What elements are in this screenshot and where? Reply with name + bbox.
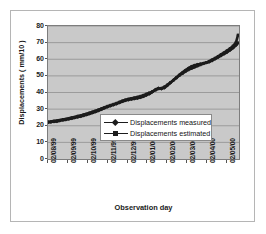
data-point (154, 89, 157, 92)
x-tick-label: 02/04/00 (209, 138, 216, 163)
data-point (169, 81, 172, 84)
data-point (178, 74, 181, 77)
data-point (56, 119, 59, 122)
data-point (235, 41, 238, 44)
x-tick-label: 02/11/99 (110, 138, 117, 163)
data-point (190, 67, 193, 70)
legend-item-measured: Displacements measured (104, 117, 208, 128)
data-point (142, 94, 145, 97)
data-point (151, 90, 154, 93)
legend-label-measured: Displacements measured (128, 118, 211, 127)
legend-marker-diamond-icon (104, 118, 128, 127)
data-point (77, 115, 80, 118)
data-point (50, 120, 53, 123)
x-axis-title: Observation day (47, 203, 240, 212)
data-point (196, 65, 199, 68)
data-point (157, 88, 160, 91)
data-point (160, 87, 163, 90)
y-tick-mark (45, 158, 47, 159)
data-point (214, 57, 217, 60)
data-point (187, 69, 190, 72)
data-point (223, 51, 226, 54)
data-point (145, 93, 148, 96)
legend-label-estimated: Displacements estimated (128, 129, 210, 138)
data-point (199, 64, 202, 67)
x-tick-mark (107, 160, 108, 163)
x-tick-mark (67, 160, 68, 163)
data-point (86, 112, 89, 115)
x-axis-tick-labels: 02/08/9902/09/9902/10/9902/11/9902/12/99… (47, 161, 240, 201)
data-point (175, 77, 178, 80)
data-point (121, 100, 124, 103)
x-tick-mark (47, 160, 48, 163)
y-tick-label: 30 (26, 105, 44, 112)
data-point (62, 118, 65, 121)
y-tick-label: 20 (26, 121, 44, 128)
data-point (237, 34, 239, 37)
chart-legend: Displacements measured Displacements est… (100, 114, 212, 141)
data-point (220, 53, 223, 56)
x-tick-label: 02/08/99 (50, 138, 57, 163)
data-point (91, 110, 94, 113)
data-point (181, 72, 184, 75)
data-point (136, 96, 139, 99)
data-point (74, 116, 77, 119)
data-series-layer (48, 34, 239, 125)
data-point (127, 98, 130, 101)
y-tick-mark (45, 42, 47, 43)
data-point (172, 79, 175, 82)
data-point (163, 86, 166, 89)
x-tick-mark (206, 160, 207, 163)
data-point (226, 49, 229, 52)
data-point (106, 105, 109, 108)
x-tick-label: 02/02/00 (169, 138, 176, 163)
data-point (184, 70, 187, 73)
x-tick-mark (127, 160, 128, 163)
y-tick-label: 0 (26, 155, 44, 162)
data-point (211, 58, 214, 61)
legend-item-estimated: Displacements estimated (104, 128, 208, 139)
data-point (53, 120, 56, 123)
x-tick-label: 02/10/99 (90, 138, 97, 163)
x-tick-mark (166, 160, 167, 163)
y-tick-mark (45, 58, 47, 59)
data-point (80, 114, 83, 117)
data-point (59, 119, 62, 122)
data-point (112, 103, 115, 106)
data-point (97, 108, 100, 111)
y-tick-label: 50 (26, 71, 44, 78)
y-tick-label: 60 (26, 55, 44, 62)
x-tick-mark (87, 160, 88, 163)
y-tick-label: 40 (26, 88, 44, 95)
legend-marker-square-icon (104, 129, 128, 138)
y-tick-label: 80 (26, 22, 44, 29)
data-point (94, 109, 97, 112)
data-point (139, 95, 142, 98)
data-point (48, 120, 49, 123)
data-point (71, 116, 74, 119)
data-point (109, 104, 112, 107)
data-point (130, 97, 133, 100)
y-tick-mark (45, 92, 47, 93)
x-tick-label: 02/01/00 (149, 138, 156, 163)
x-tick-label: 02/09/99 (70, 138, 77, 163)
y-tick-mark (45, 108, 47, 109)
data-point (103, 106, 106, 109)
data-point (166, 84, 169, 87)
data-point (148, 92, 151, 95)
data-point (202, 62, 205, 65)
data-point (100, 107, 103, 110)
data-point (217, 55, 220, 58)
data-point (205, 61, 208, 64)
y-axis-tick-labels: 01020304050607080 (24, 25, 44, 160)
y-tick-label: 70 (26, 38, 44, 45)
data-point (232, 45, 235, 48)
series-line-measured (48, 43, 238, 122)
data-point (133, 96, 136, 99)
data-point (193, 66, 196, 69)
data-point (115, 102, 118, 105)
chart-figure: Displacements ( mm/10 ) 0102030405060708… (0, 0, 266, 234)
y-tick-label: 10 (26, 138, 44, 145)
x-tick-label: 02/12/99 (130, 138, 137, 163)
x-tick-label: 02/05/00 (229, 138, 236, 163)
